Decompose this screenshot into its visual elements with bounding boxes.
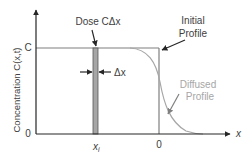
- y-tick-zero: 0: [25, 128, 31, 139]
- dose-arrow: [92, 30, 96, 46]
- x-tick-origin: 0: [156, 139, 162, 150]
- initial-profile-label-2: Profile: [179, 28, 208, 39]
- x-axis-label: x: [235, 128, 242, 139]
- diffused-profile-arrow: [168, 94, 179, 114]
- diffusion-diagram: Concentration C(x,t) C 0 x xi 0 Dose CΔx…: [0, 0, 250, 160]
- dose-slab: [93, 48, 98, 134]
- diffused-profile-label-2: Profile: [186, 91, 215, 102]
- delta-x-label: Δx: [114, 67, 126, 78]
- dose-label: Dose CΔx: [75, 16, 120, 27]
- x-tick-xi-sub: i: [98, 146, 100, 153]
- diffused-profile-label-1: Diffused: [180, 79, 217, 90]
- initial-profile-arrow: [162, 40, 185, 50]
- y-axis-label: Concentration C(x,t): [11, 47, 22, 132]
- y-tick-c: C: [24, 42, 31, 53]
- x-tick-xi: xi: [92, 141, 100, 153]
- initial-profile-label-1: Initial: [181, 15, 204, 26]
